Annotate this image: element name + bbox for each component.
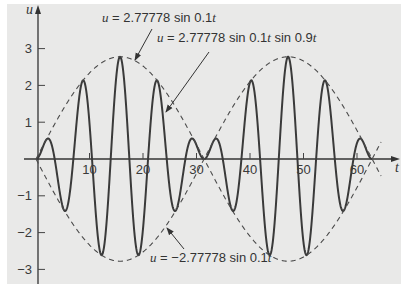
annotation-arrow-icon — [167, 228, 184, 249]
annotation-label: u = −2.77778 sin 0.1t — [150, 250, 272, 265]
annotation-text-part: sin 0.9 — [271, 30, 313, 45]
annotation-label: u = 2.77778 sin 0.1t — [102, 10, 216, 25]
x-tick-label: 30 — [189, 162, 203, 177]
x-tick-label: 10 — [82, 162, 96, 177]
chart: tu102030405060−3−2−1123 u = 2.77778 sin … — [0, 0, 407, 289]
annotation-text-part: t — [313, 30, 317, 45]
y-tick-label: −2 — [17, 225, 32, 240]
y-tick-label: 1 — [25, 115, 32, 130]
y-tick-label: 3 — [25, 41, 32, 56]
modulated-wave-curve — [36, 57, 372, 255]
annotation-label: u = 2.77778 sin 0.1t sin 0.9t — [157, 30, 317, 45]
x-axis-label: t — [395, 160, 400, 175]
y-tick-label: −1 — [17, 188, 32, 203]
y-tick-label: 2 — [25, 78, 32, 93]
annotation-text-part: = −2.77778 sin 0.1 — [157, 250, 268, 265]
annotation-arrow-icon — [166, 52, 209, 112]
y-tick-label: −3 — [17, 262, 32, 277]
annotation-text-part: = 2.77778 sin 0.1 — [164, 30, 268, 45]
annotation-text-part: t — [212, 10, 216, 25]
annotation-arrow-icon — [135, 29, 152, 60]
y-axis-label: u — [26, 2, 33, 17]
annotation-text-part: = 2.77778 sin 0.1 — [109, 10, 213, 25]
x-tick-label: 40 — [243, 162, 257, 177]
annotation-text-part: t — [268, 250, 272, 265]
y-axis-arrow-icon — [35, 5, 41, 14]
